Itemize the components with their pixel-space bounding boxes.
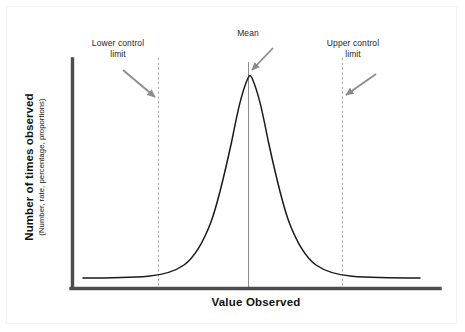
- y-axis-label-sub: (Number, rate, percentage, proportions): [37, 52, 47, 282]
- upper-control-limit-arrow: [346, 74, 376, 95]
- mean-label: Mean: [216, 28, 280, 39]
- normal-distribution-curve: [83, 75, 420, 278]
- x-axis-label: Value Observed: [72, 296, 440, 308]
- upper-control-limit-label: Upper control limit: [301, 38, 405, 60]
- mean-arrow: [252, 48, 273, 70]
- lower-control-limit-label: Lower control limit: [66, 38, 170, 60]
- y-axis-label: Number of times observed (Number, rate, …: [23, 52, 47, 282]
- lower-control-limit-arrow: [123, 70, 155, 97]
- y-axis-label-main: Number of times observed: [23, 52, 36, 282]
